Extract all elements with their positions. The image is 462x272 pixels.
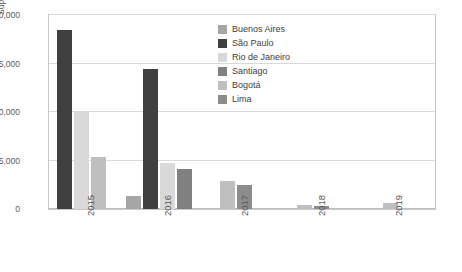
x-tick-label: 2018 (316, 195, 327, 216)
bar-chart: Supply projected surface (sq m) 02,25,00… (0, 0, 462, 272)
legend-swatch (218, 39, 227, 48)
x-tick-label: 2015 (85, 195, 96, 216)
gridline (49, 111, 435, 112)
y-tick-label: 9,00,000 (0, 10, 20, 20)
legend-label: Santiago (232, 67, 268, 76)
legend: Buenos AiresSão PauloRio de JaneiroSanti… (218, 24, 290, 108)
y-tick-label: 4,50,000 (0, 107, 20, 117)
bar (57, 30, 72, 209)
legend-swatch (218, 53, 227, 62)
legend-swatch (218, 25, 227, 34)
bar (143, 69, 158, 209)
legend-item: Rio de Janeiro (218, 52, 290, 63)
legend-label: Buenos Aires (232, 25, 285, 34)
legend-swatch (218, 81, 227, 90)
legend-label: Bogotá (232, 81, 261, 90)
x-tick-label: 2017 (239, 195, 250, 216)
legend-item: Lima (218, 94, 290, 105)
gridline (49, 14, 435, 15)
y-tick-label: 2,25,000 (0, 156, 20, 166)
x-tick-label: 2019 (393, 195, 404, 216)
legend-swatch (218, 95, 227, 104)
bar (220, 181, 235, 209)
legend-item: Buenos Aires (218, 24, 290, 35)
y-tick-label: 0 (0, 204, 20, 214)
legend-item: Santiago (218, 66, 290, 77)
legend-label: Rio de Janeiro (232, 53, 290, 62)
x-tick-label: 2016 (162, 195, 173, 216)
legend-label: São Paulo (232, 39, 274, 48)
bar (177, 169, 192, 209)
legend-item: São Paulo (218, 38, 290, 49)
bar (297, 205, 312, 209)
y-tick-label: 6,75,000 (0, 59, 20, 69)
bar (126, 196, 141, 209)
legend-label: Lima (232, 95, 252, 104)
legend-swatch (218, 67, 227, 76)
gridline (49, 160, 435, 161)
legend-item: Bogotá (218, 80, 290, 91)
y-axis-title: Supply projected surface (sq m) (0, 0, 6, 40)
